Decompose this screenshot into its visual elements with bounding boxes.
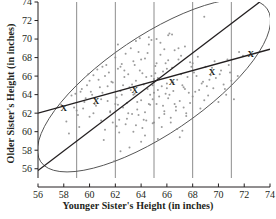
y-tick-label: 64	[22, 89, 32, 100]
y-tick-label: 66	[22, 71, 32, 82]
x-tick-label: 70	[213, 189, 223, 200]
y-axis-title: Older Sister's Height (in inches)	[5, 4, 16, 184]
x-marker-5: X	[209, 67, 216, 77]
plot-canvas: XXXXXX 56586062646668707274 565860626466…	[0, 0, 276, 219]
x-axis-title: Younger Sister's Height (in inches)	[0, 200, 276, 211]
x-marker-6: X	[247, 49, 254, 59]
x-tick-label: 72	[239, 189, 249, 200]
x-axis: 56586062646668707274	[33, 184, 275, 201]
y-tick-label: 74	[22, 0, 32, 7]
identity-line	[38, 2, 260, 171]
y-tick-label: 56	[22, 163, 32, 174]
x-marker-3: X	[131, 85, 138, 95]
x-tick-label: 64	[136, 189, 146, 200]
x-tick-label: 68	[188, 189, 198, 200]
x-tick-label: 58	[59, 189, 69, 200]
data-concentration-ellipse	[13, 0, 276, 202]
y-tick-label: 58	[22, 145, 32, 156]
x-tick-label: 60	[85, 189, 95, 200]
y-tick-label: 60	[22, 126, 32, 137]
y-tick-label: 62	[22, 108, 32, 119]
x-marker-2: X	[93, 96, 100, 106]
y-axis: 56586062646668707274	[22, 0, 38, 178]
x-marker-1: X	[61, 103, 68, 113]
x-tick-label: 66	[162, 189, 172, 200]
x-tick-label: 56	[33, 189, 43, 200]
scatter-plot-figure: XXXXXX 56586062646668707274 565860626466…	[0, 0, 276, 219]
y-tick-label: 72	[22, 15, 32, 26]
x-tick-label: 62	[110, 189, 120, 200]
vertical-gridlines-group	[77, 2, 232, 178]
y-tick-label: 70	[22, 33, 32, 44]
scatter-points-group	[60, 16, 244, 163]
y-tick-label: 68	[22, 52, 32, 63]
x-marker-4: X	[169, 77, 176, 87]
x-tick-label: 74	[265, 189, 275, 200]
